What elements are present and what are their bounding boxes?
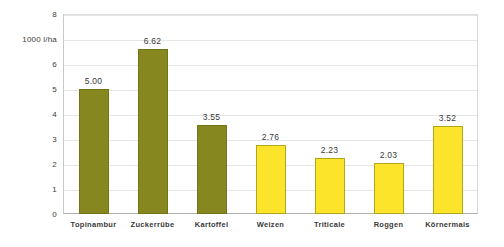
x-axis-label: Topinambur: [71, 220, 117, 229]
bar: [197, 125, 227, 214]
y-tick-6: 6: [9, 60, 57, 69]
bar: [138, 49, 168, 215]
y-axis: 8 1000 l/ha 6 5 4 3 2 1 0: [0, 14, 57, 214]
bar-value-label: 6.62: [144, 36, 161, 46]
bar-group: 2.03: [359, 14, 418, 214]
bar: [433, 126, 463, 214]
bars-layer: 5.006.623.552.762.232.033.52: [64, 14, 477, 214]
bar-group: 6.62: [123, 14, 182, 214]
bar: [256, 145, 286, 214]
y-tick-8: 8: [9, 10, 57, 19]
y-tick-1: 1: [9, 185, 57, 194]
x-axis: TopinamburZuckerrübeKartoffelWeizenTriti…: [64, 216, 477, 236]
y-tick-4: 4: [9, 110, 57, 119]
bar-group: 5.00: [64, 14, 123, 214]
bar-value-label: 2.03: [380, 150, 397, 160]
bar-value-label: 5.00: [85, 76, 102, 86]
y-tick-3: 3: [9, 135, 57, 144]
bar-group: 2.76: [241, 14, 300, 214]
y-tick-5: 5: [9, 85, 57, 94]
x-axis-label: Kartoffel: [195, 220, 229, 229]
x-axis-label: Triticale: [314, 220, 345, 229]
x-axis-label: Zuckerrübe: [131, 220, 175, 229]
y-tick-0: 0: [9, 210, 57, 219]
bar-value-label: 3.52: [439, 113, 456, 123]
bar: [79, 89, 109, 214]
y-tick-2: 2: [9, 160, 57, 169]
bar-group: 3.55: [182, 14, 241, 214]
bar-value-label: 2.23: [321, 145, 338, 155]
bar: [315, 158, 345, 214]
bar-group: 2.23: [300, 14, 359, 214]
bar-chart: 8 1000 l/ha 6 5 4 3 2 1 0 5.006.623.552.…: [0, 0, 504, 247]
bar: [374, 163, 404, 214]
x-axis-label: Körnermais: [425, 220, 470, 229]
y-axis-unit-label: 1000 l/ha: [1, 35, 57, 44]
x-axis-label: Weizen: [257, 220, 285, 229]
bar-value-label: 2.76: [262, 132, 279, 142]
x-axis-label: Roggen: [374, 220, 404, 229]
bar-group: 3.52: [418, 14, 477, 214]
bar-value-label: 3.55: [203, 112, 220, 122]
